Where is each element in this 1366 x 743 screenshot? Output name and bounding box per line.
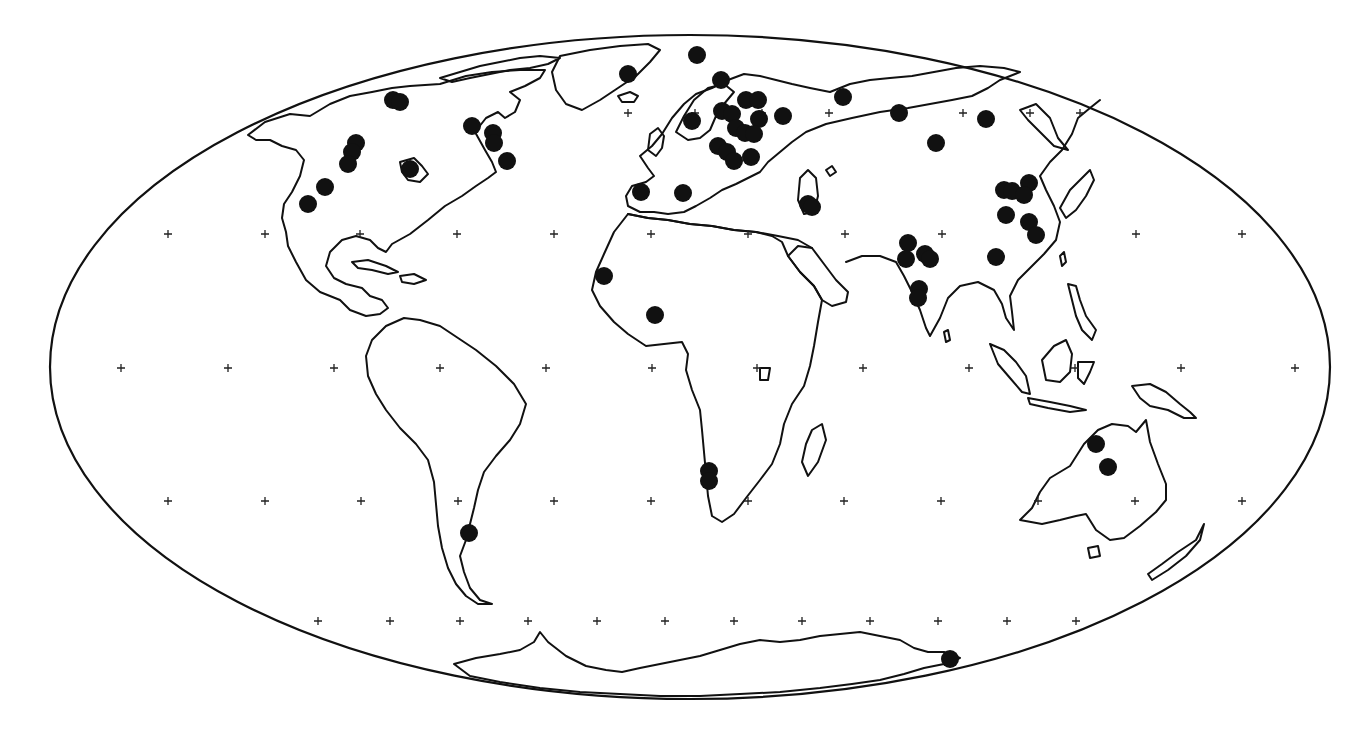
location-marker [688,46,706,64]
location-marker [899,234,917,252]
location-marker [897,250,915,268]
location-marker [774,107,792,125]
location-marker [632,183,650,201]
location-marker [1015,186,1033,204]
location-marker [401,160,419,178]
location-marker [646,306,664,324]
location-marker [749,91,767,109]
location-marker [834,88,852,106]
location-marker [921,250,939,268]
location-marker [742,148,760,166]
location-marker [890,104,908,122]
location-marker [460,524,478,542]
location-marker [987,248,1005,266]
location-marker [674,184,692,202]
location-marker [927,134,945,152]
mollweide-map-canvas [0,0,1366,743]
location-marker [485,134,503,152]
location-marker [712,71,730,89]
location-marker [498,152,516,170]
location-marker [391,93,409,111]
location-marker [339,155,357,173]
location-marker [977,110,995,128]
location-marker [299,195,317,213]
location-marker [997,206,1015,224]
location-marker [683,112,701,130]
location-marker [595,267,613,285]
map-outline-ellipse [50,35,1330,699]
location-marker [725,152,743,170]
location-marker [909,289,927,307]
location-marker [1099,458,1117,476]
location-marker [1027,226,1045,244]
location-marker [803,198,821,216]
location-marker [463,117,481,135]
location-marker [745,125,763,143]
location-marker [700,472,718,490]
location-marker [316,178,334,196]
location-marker [619,65,637,83]
world-map [0,0,1366,743]
location-marker [941,650,959,668]
location-marker [1087,435,1105,453]
